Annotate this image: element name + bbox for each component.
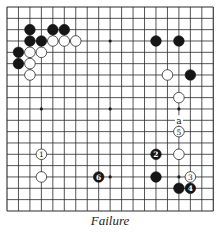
white-stone <box>36 172 47 183</box>
move-number: 3 <box>188 173 193 182</box>
go-board-diagram: a 123456 Failure <box>0 0 220 233</box>
white-stone <box>25 47 36 58</box>
white-stone <box>174 92 185 103</box>
black-stone <box>59 24 70 35</box>
black-stone <box>13 58 24 69</box>
black-stone <box>25 24 36 35</box>
white-stone <box>70 36 81 47</box>
move-number: 1 <box>39 150 44 159</box>
black-stone <box>48 24 59 35</box>
go-board: a 123456 <box>0 0 220 212</box>
white-stone <box>25 70 36 81</box>
star-point-icon <box>109 39 112 42</box>
diagram-caption: Failure <box>0 213 220 229</box>
move-number: 2 <box>153 150 158 159</box>
white-stone <box>59 36 70 47</box>
black-stone <box>25 36 36 47</box>
black-stone <box>174 36 185 47</box>
black-stone <box>13 47 24 58</box>
star-point-icon <box>40 107 43 110</box>
star-point-icon <box>177 175 180 178</box>
star-point-icon <box>177 107 180 110</box>
star-point-icon <box>109 175 112 178</box>
black-stone <box>151 172 162 183</box>
white-stone <box>162 70 173 81</box>
move-number: 5 <box>177 128 182 137</box>
point-labels: a <box>175 115 183 126</box>
white-stone <box>48 36 59 47</box>
black-stone <box>151 36 162 47</box>
move-number: 6 <box>96 173 101 182</box>
white-stone <box>36 47 47 58</box>
black-stone <box>174 183 185 194</box>
point-label: a <box>176 116 182 126</box>
black-stone <box>185 70 196 81</box>
black-stone <box>36 36 47 47</box>
star-point-icon <box>109 107 112 110</box>
white-stone <box>25 58 36 69</box>
white-stone <box>174 149 185 160</box>
move-number: 4 <box>188 184 193 193</box>
